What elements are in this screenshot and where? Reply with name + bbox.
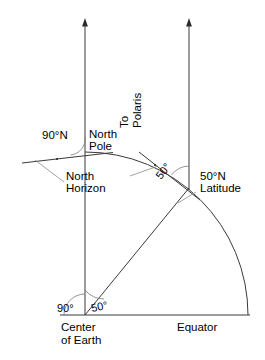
north-horizon-label-line-2: Horizon — [66, 182, 106, 194]
angle-arc-90n-pole — [71, 137, 86, 155]
center-of-earth-label-line-1: Center — [61, 321, 96, 333]
north-horizon-line — [22, 153, 113, 164]
horizon-tangent-point-dot — [56, 158, 58, 160]
north-pole-label-line-2: Pole — [89, 140, 112, 152]
north-pole-label-line-1: North — [89, 128, 117, 140]
pole-latitude-label: 90°N — [42, 129, 68, 141]
north-horizon-leader-line — [35, 160, 64, 182]
latitude-label-line-1: 50°N — [200, 170, 226, 182]
to-polaris-label: To Polaris — [118, 93, 143, 128]
north-horizon-label-line-1: North — [66, 170, 94, 182]
latitude-tangent-point-dot — [154, 164, 156, 166]
latitude-label-line-2: Latitude — [200, 182, 241, 194]
latitude-horizon-tangent-line — [139, 152, 200, 200]
equator-label: Equator — [177, 321, 217, 333]
center-of-earth-label-line-2: of Earth — [61, 334, 101, 346]
polaris-ray-arrowhead-icon — [186, 18, 192, 27]
tangent-angle-label: 50° — [153, 161, 173, 182]
angle-arc-50-latitude — [172, 166, 190, 175]
diagram-canvas: To Polaris 90°N North Pole North Horizon… — [0, 0, 265, 360]
to-polaris-line-1: To — [118, 116, 130, 128]
center-angle-90-label: 90° — [57, 302, 74, 314]
center-angle-50-label: 50° — [90, 299, 109, 314]
radius-to-latitude-line — [85, 188, 189, 315]
latitude-polaris-diagram: To Polaris 90°N North Pole North Horizon… — [0, 0, 265, 360]
to-polaris-line-2: Polaris — [131, 93, 143, 128]
polar-axis-arrowhead-icon — [82, 18, 88, 27]
